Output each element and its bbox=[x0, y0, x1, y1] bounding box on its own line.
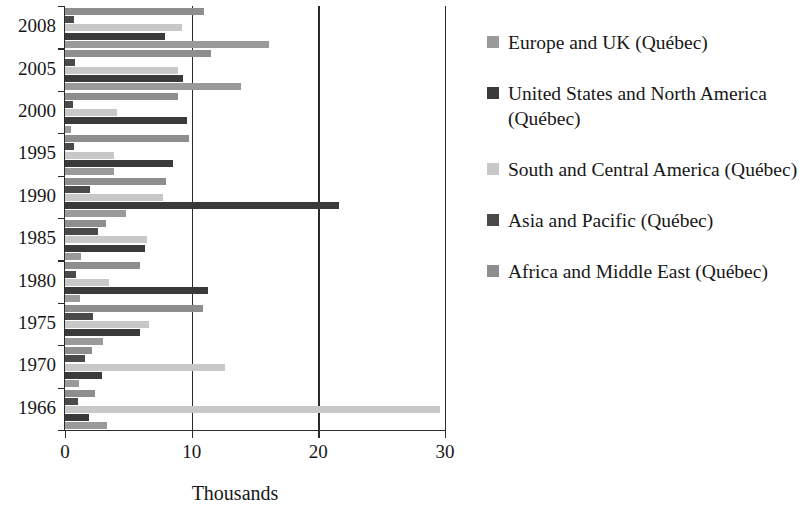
chart-bar bbox=[65, 152, 114, 159]
y-axis-category-label: 2008 bbox=[18, 16, 56, 35]
chart-bar bbox=[65, 295, 80, 302]
chart-bar bbox=[65, 380, 79, 387]
y-tick-mark bbox=[58, 91, 65, 92]
y-axis-labels: 2008200520001995199019851980197519701966 bbox=[0, 0, 60, 430]
chart-bar bbox=[65, 101, 73, 108]
chart-bar bbox=[65, 329, 140, 336]
y-axis-category-label: 1990 bbox=[18, 186, 56, 205]
y-axis-category-label: 2000 bbox=[18, 101, 56, 120]
y-tick-mark bbox=[58, 260, 65, 261]
chart-bar bbox=[65, 160, 173, 167]
legend-swatch-icon bbox=[487, 265, 499, 277]
chart-bar bbox=[65, 41, 269, 48]
plot-area: 0102030 bbox=[65, 6, 445, 430]
chart-bar bbox=[65, 59, 75, 66]
chart-container: 2008200520001995199019851980197519701966… bbox=[0, 0, 804, 526]
chart-bar bbox=[65, 321, 149, 328]
chart-bar bbox=[65, 355, 85, 362]
y-axis-category-label: 1975 bbox=[18, 313, 56, 332]
x-tick-mark bbox=[445, 430, 446, 438]
chart-bar bbox=[65, 287, 208, 294]
gridline bbox=[318, 6, 319, 430]
legend-label: South and Central America (Québec) bbox=[508, 157, 797, 182]
chart-bar bbox=[65, 305, 203, 312]
legend-swatch-icon bbox=[487, 87, 499, 99]
legend-item[interactable]: Africa and Middle East (Québec) bbox=[487, 259, 804, 284]
x-tick-label: 10 bbox=[182, 442, 201, 462]
chart-bar bbox=[65, 253, 81, 260]
chart-bar bbox=[65, 422, 107, 429]
chart-bar bbox=[65, 109, 117, 116]
y-axis-category-label: 1985 bbox=[18, 228, 56, 247]
chart-bar bbox=[65, 279, 109, 286]
legend-item[interactable]: United States and North America (Québec) bbox=[487, 81, 804, 131]
y-axis-category-label: 1980 bbox=[18, 271, 56, 290]
chart-bar bbox=[65, 33, 165, 40]
chart-bar bbox=[65, 194, 163, 201]
chart-bar bbox=[65, 220, 106, 227]
chart-bar bbox=[65, 313, 93, 320]
legend-item[interactable]: South and Central America (Québec) bbox=[487, 157, 804, 182]
chart-bar bbox=[65, 168, 114, 175]
legend-item[interactable]: Asia and Pacific (Québec) bbox=[487, 208, 804, 233]
chart-bar bbox=[65, 50, 211, 57]
y-axis-category-label: 1970 bbox=[18, 355, 56, 374]
chart-bar bbox=[65, 8, 204, 15]
chart-bar bbox=[65, 135, 189, 142]
chart-legend: Europe and UK (Québec)United States and … bbox=[487, 30, 804, 310]
chart-bar bbox=[65, 406, 440, 413]
chart-bar bbox=[65, 83, 241, 90]
y-tick-mark bbox=[58, 218, 65, 219]
x-tick-mark bbox=[65, 430, 66, 438]
gridline bbox=[445, 6, 446, 430]
y-axis-category-label: 1966 bbox=[18, 398, 56, 417]
plot-wrapper: 2008200520001995199019851980197519701966… bbox=[0, 0, 470, 526]
chart-bar bbox=[65, 414, 89, 421]
y-tick-mark bbox=[58, 430, 65, 431]
y-axis-category-label: 1995 bbox=[18, 143, 56, 162]
chart-bar bbox=[65, 372, 102, 379]
y-tick-mark bbox=[58, 388, 65, 389]
chart-bar bbox=[65, 178, 166, 185]
chart-bar bbox=[65, 186, 90, 193]
x-axis-line bbox=[64, 430, 445, 431]
legend-label: United States and North America (Québec) bbox=[508, 81, 798, 131]
chart-bar bbox=[65, 67, 178, 74]
chart-bar bbox=[65, 202, 339, 209]
chart-bar bbox=[65, 364, 225, 371]
legend-swatch-icon bbox=[487, 163, 499, 175]
legend-swatch-icon bbox=[487, 214, 499, 226]
x-tick-label: 30 bbox=[436, 442, 455, 462]
x-tick-label: 20 bbox=[309, 442, 328, 462]
chart-bar bbox=[65, 117, 187, 124]
y-tick-mark bbox=[58, 303, 65, 304]
chart-bar bbox=[65, 126, 71, 133]
chart-bar bbox=[65, 75, 183, 82]
y-axis-category-label: 2005 bbox=[18, 59, 56, 78]
legend-label: Europe and UK (Québec) bbox=[508, 30, 708, 55]
y-tick-mark bbox=[58, 133, 65, 134]
chart-bar bbox=[65, 245, 145, 252]
chart-bar bbox=[65, 143, 74, 150]
chart-bar bbox=[65, 262, 140, 269]
chart-bar bbox=[65, 338, 103, 345]
chart-bar bbox=[65, 347, 92, 354]
chart-bar bbox=[65, 228, 98, 235]
chart-bar bbox=[65, 271, 76, 278]
chart-bar bbox=[65, 398, 78, 405]
chart-bar bbox=[65, 210, 126, 217]
legend-item[interactable]: Europe and UK (Québec) bbox=[487, 30, 804, 55]
x-axis-title: Thousands bbox=[0, 482, 470, 505]
legend-label: Africa and Middle East (Québec) bbox=[508, 259, 768, 284]
y-tick-mark bbox=[58, 48, 65, 49]
legend-swatch-icon bbox=[487, 36, 499, 48]
chart-bar bbox=[65, 236, 147, 243]
x-tick-mark bbox=[318, 430, 319, 438]
y-tick-mark bbox=[58, 345, 65, 346]
y-tick-mark bbox=[58, 176, 65, 177]
chart-bar bbox=[65, 16, 74, 23]
y-tick-mark bbox=[58, 6, 65, 7]
legend-label: Asia and Pacific (Québec) bbox=[508, 208, 713, 233]
chart-bar bbox=[65, 390, 95, 397]
x-tick-mark bbox=[192, 430, 193, 438]
